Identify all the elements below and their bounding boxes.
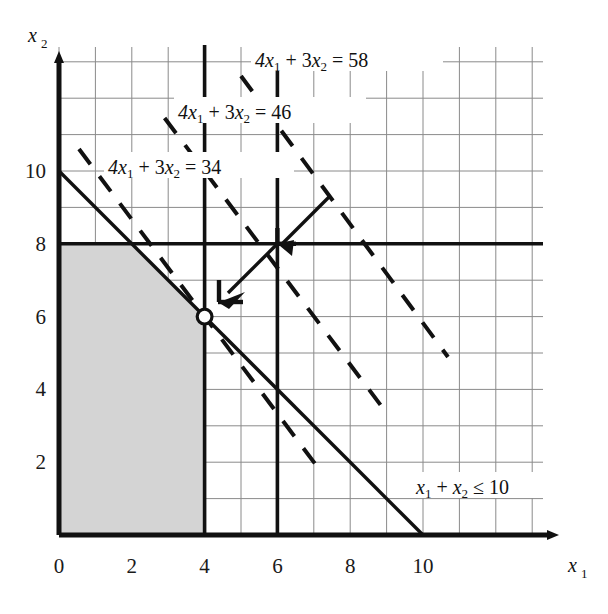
isoprofit-label-58-text: 4x1 + 3x2 = 58 (255, 49, 368, 74)
y-axis-tick-labels: 2 4 6 8 10 (25, 159, 47, 474)
y-tick-2: 2 (36, 450, 47, 474)
isoprofit-label-34: 4x1 + 3x2 = 34 (104, 152, 294, 181)
x-tick-6: 6 (272, 554, 283, 578)
constraint-label-sum: x1 + x2 ≤ 10 (412, 472, 562, 501)
x-tick-0: 0 (54, 554, 65, 578)
x-axis-tick-labels: 0 2 4 6 8 10 (54, 554, 434, 578)
y-tick-4: 4 (36, 377, 47, 401)
y-axis-title-sub: 2 (41, 36, 48, 51)
x-axis-title-letter: x (567, 554, 577, 576)
lp-graph-figure: 0 2 4 6 8 10 2 4 6 8 10 x 1 x 2 4x1 + 3x… (0, 0, 608, 614)
y-axis-title: x 2 (27, 24, 48, 51)
y-tick-6: 6 (36, 305, 47, 329)
x-tick-10: 10 (413, 554, 434, 578)
lp-graph-svg: 0 2 4 6 8 10 2 4 6 8 10 x 1 x 2 4x1 + 3x… (0, 0, 608, 614)
gradient-arrow-in-shaft (281, 196, 330, 245)
optimal-vertex-marker (197, 309, 212, 324)
isoprofit-label-46-text: 4x1 + 3x2 = 46 (178, 101, 291, 126)
gradient-arrow-out-shaft (228, 244, 277, 293)
x-axis-title: x 1 (567, 554, 588, 581)
y-tick-10: 10 (25, 159, 46, 183)
x-axis-title-sub: 1 (581, 566, 588, 581)
x-tick-4: 4 (199, 554, 210, 578)
isoprofit-label-58: 4x1 + 3x2 = 58 (251, 45, 443, 74)
x-tick-2: 2 (127, 554, 138, 578)
isoprofit-label-34-text: 4x1 + 3x2 = 34 (108, 156, 221, 181)
y-tick-8: 8 (36, 232, 47, 256)
isoprofit-label-46: 4x1 + 3x2 = 46 (174, 97, 366, 126)
y-axis-title-letter: x (27, 24, 37, 46)
x-tick-8: 8 (345, 554, 356, 578)
